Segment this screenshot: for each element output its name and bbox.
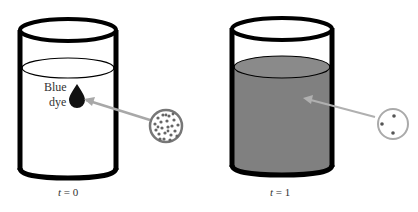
time-value: = 0 [61, 186, 78, 198]
dye-drop-icon [69, 84, 85, 108]
blue-label: Blue [44, 80, 67, 95]
left-beaker [20, 19, 116, 178]
time-label-right: t = 1 [270, 186, 290, 198]
time-value: = 1 [273, 186, 290, 198]
dense-particles-inset [150, 110, 182, 142]
time-label-left: t = 0 [58, 186, 78, 198]
right-beaker [232, 18, 332, 175]
sparse-particles-inset [378, 109, 408, 139]
dye-label: dye [49, 95, 66, 110]
